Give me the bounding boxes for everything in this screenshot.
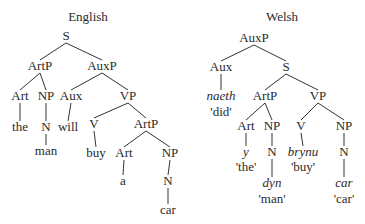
- labels-layer: EnglishSArtPAuxPArtNPAuxVPtheNwillVArtPm…: [11, 9, 354, 217]
- tree-node-welsh-naeth: naeth: [207, 88, 236, 103]
- tree-node-welsh-v: V: [296, 118, 306, 133]
- tree-node-welsh-n1: N: [267, 144, 277, 159]
- tree-node-welsh-dyn: dyn: [263, 175, 282, 190]
- tree-node-welsh-the: 'the': [236, 159, 257, 174]
- tree-node-welsh-np1: NP: [264, 118, 281, 133]
- tree-node-welsh-brynu: brynu: [288, 144, 319, 159]
- tree-node-english-car: car: [160, 202, 177, 217]
- tree-diagram-canvas: EnglishSArtPAuxPArtNPAuxVPtheNwillVArtPm…: [0, 0, 365, 224]
- tree-node-welsh-aux: Aux: [210, 59, 233, 74]
- tree-node-welsh-art: Art: [237, 118, 255, 133]
- tree-node-welsh-s: S: [282, 59, 289, 74]
- tree-node-english-vp: VP: [120, 88, 137, 103]
- tree-node-english-art2: Art: [115, 145, 133, 160]
- tree-node-english-will: will: [58, 119, 79, 134]
- tree-title-welsh: Welsh: [266, 9, 299, 24]
- tree-node-english-artp1: ArtP: [28, 58, 53, 73]
- tree-node-english-np1: NP: [38, 88, 55, 103]
- tree-node-english-n2: N: [163, 173, 173, 188]
- tree-node-welsh-np2: NP: [336, 118, 353, 133]
- tree-node-english-s: S: [62, 28, 69, 43]
- tree-node-english-v: V: [89, 116, 99, 131]
- tree-edge: [94, 103, 128, 118]
- tree-node-english-aux: Aux: [60, 88, 83, 103]
- tree-node-english-np2: NP: [162, 145, 179, 160]
- tree-node-english-a: a: [120, 173, 126, 188]
- tree-node-welsh-y: y: [241, 144, 249, 159]
- tree-node-welsh-man: 'man': [258, 191, 285, 206]
- syntax-tree-comparison: EnglishSArtPAuxPArtNPAuxVPtheNwillVArtPm…: [0, 0, 365, 224]
- tree-node-welsh-car: car: [335, 175, 353, 190]
- tree-node-welsh-vp: VP: [310, 88, 327, 103]
- tree-edge: [254, 45, 286, 61]
- tree-node-english-n1: N: [41, 119, 51, 134]
- tree-node-english-man: man: [35, 143, 58, 158]
- tree-node-welsh-did: 'did': [210, 104, 231, 119]
- tree-english: EnglishSArtPAuxPArtNPAuxVPtheNwillVArtPm…: [11, 9, 178, 217]
- tree-title-english: English: [68, 9, 108, 24]
- tree-node-english-artp2: ArtP: [134, 116, 159, 131]
- tree-node-english-the: the: [12, 119, 28, 134]
- tree-node-welsh-auxp: AuxP: [239, 30, 269, 45]
- tree-node-english-auxp: AuxP: [87, 58, 117, 73]
- tree-welsh: WelshAuxPAuxSnaeth'did'ArtPVPArtNPVNPy't…: [207, 9, 355, 206]
- tree-node-welsh-car_gloss: 'car': [334, 191, 355, 206]
- tree-node-welsh-artp: ArtP: [253, 88, 278, 103]
- tree-node-welsh-n2: N: [339, 144, 349, 159]
- tree-node-english-buy: buy: [86, 145, 106, 160]
- tree-node-english-art1: Art: [11, 88, 29, 103]
- tree-node-welsh-buy: 'buy': [291, 159, 315, 174]
